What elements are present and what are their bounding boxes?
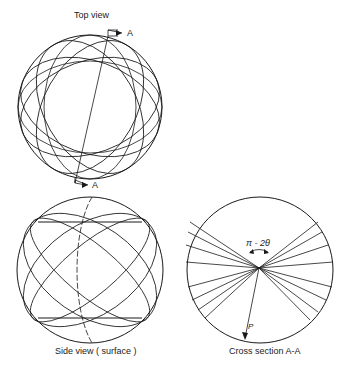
section-line-a-a bbox=[75, 30, 122, 185]
arrow-bottom-icon bbox=[82, 182, 88, 188]
section-label-bottom: A bbox=[92, 180, 98, 190]
cross-section-caption: Cross section A-A bbox=[229, 346, 301, 356]
side-view-caption: Side view ( surface ) bbox=[55, 346, 137, 356]
angle-label: π - 2θ bbox=[246, 238, 270, 248]
vector-label: P bbox=[248, 322, 253, 331]
arrow-top-icon bbox=[116, 30, 122, 36]
vector-p-arrow-icon bbox=[242, 332, 248, 340]
diagram-canvas bbox=[0, 0, 347, 368]
top-view-sphere bbox=[7, 22, 174, 193]
side-view-sphere bbox=[3, 190, 177, 350]
angle-arrow-left-icon bbox=[249, 249, 254, 254]
cross-section-circle bbox=[186, 197, 333, 343]
angle-arrow-right-icon bbox=[264, 249, 269, 254]
section-label-top: A bbox=[127, 28, 133, 38]
top-view-title: Top view bbox=[74, 10, 109, 20]
